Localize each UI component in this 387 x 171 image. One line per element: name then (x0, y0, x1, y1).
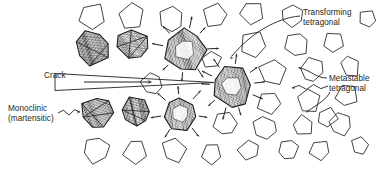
metastable-tetragonal-grain (309, 141, 329, 160)
metastable-tetragonal-grain (253, 117, 276, 140)
metastable-tetragonal-grain (298, 89, 320, 111)
metastable-tetragonal-grain (329, 113, 350, 136)
transforming-tetragonal-grain-group (102, 0, 308, 171)
metastable-tetragonal-grain (84, 138, 109, 164)
metastable-tetragonal-grain (352, 137, 369, 154)
metastable-tetragonal-grain (257, 93, 280, 114)
metastable-tetragonal-grain (237, 140, 258, 160)
metastable-tetragonal-grain (213, 112, 237, 133)
metastable-tetragonal-grain (324, 33, 344, 52)
metastable-tetragonal-grain (279, 141, 299, 159)
metastable-tetragonal-grain (259, 60, 287, 85)
metastable-tetragonal-grain (79, 4, 104, 30)
label-metastable-tetragonal: Metastable tetragonal (329, 74, 370, 93)
metastable-tetragonal-grain (119, 3, 143, 29)
label-monoclinic-martensitic: Monoclinic (martensitic) (8, 104, 54, 123)
metastable-tetragonal-grain (160, 6, 182, 31)
metastable-tetragonal-grain (293, 115, 312, 135)
metastable-tetragonal-grain (123, 141, 147, 164)
metastable-tetragonal-grain (360, 11, 376, 27)
metastable-tetragonal-grain (240, 4, 263, 25)
metastable-tetragonal-grain (285, 34, 307, 56)
transformation-toughening-diagram: Transforming tetragonal Metastable tetra… (0, 0, 387, 171)
metastable-tetragonal-grain (140, 73, 162, 94)
metastable-tetragonal-grain (204, 3, 227, 26)
metastable-tetragonal-grain (318, 107, 338, 127)
metastable-tetragonal-grain (162, 138, 186, 163)
label-transforming-tetragonal: Transforming tetragonal (303, 8, 352, 27)
metastable-tetragonal-grain (202, 145, 221, 165)
crack-wedge (55, 74, 214, 91)
label-crack: Crack (44, 71, 66, 81)
